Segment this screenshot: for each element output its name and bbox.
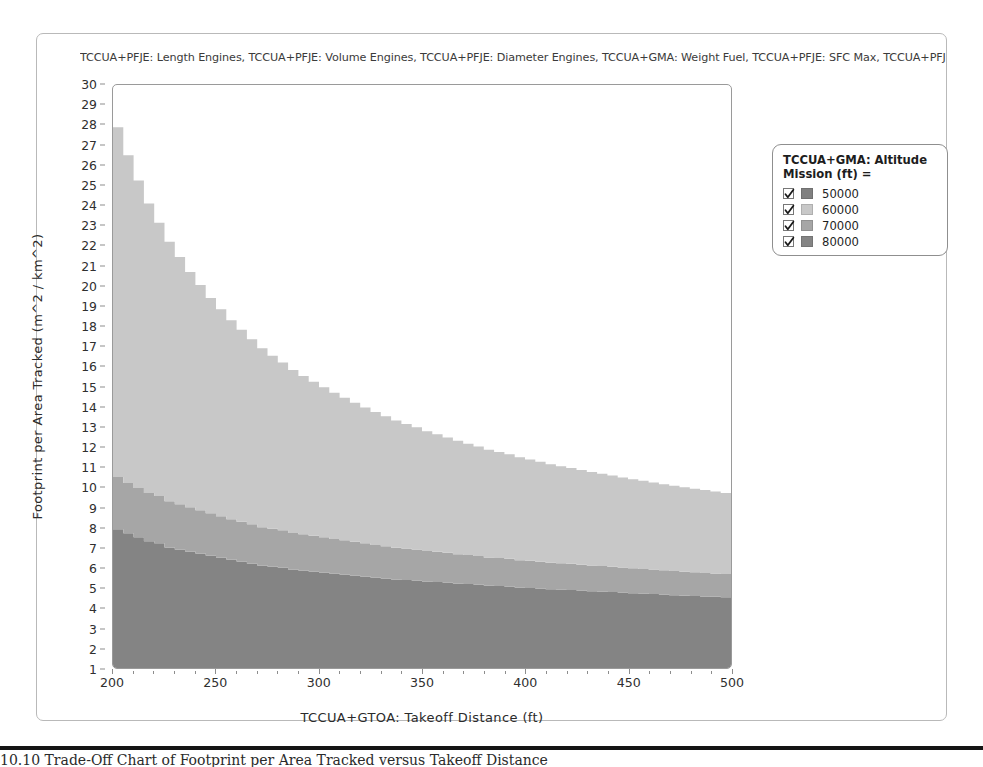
plot-area[interactable]: [113, 85, 731, 668]
y-tick-label: 25: [81, 177, 97, 192]
y-tick-mark: [100, 447, 105, 448]
y-tick-label: 23: [81, 218, 97, 233]
x-minor-tick-mark: [567, 671, 568, 674]
y-tick-mark: [100, 588, 105, 589]
y-tick-mark: [100, 426, 105, 427]
y-tick-label: 19: [81, 298, 97, 313]
y-tick-mark: [100, 507, 105, 508]
x-minor-tick-mark: [670, 671, 671, 674]
y-tick-mark: [100, 265, 105, 266]
y-tick-label: 12: [81, 440, 97, 455]
y-tick-mark: [100, 205, 105, 206]
legend-color-swatch: [801, 188, 813, 199]
x-minor-tick-mark: [236, 671, 237, 674]
y-tick-label: 21: [81, 258, 97, 273]
y-tick-label: 1: [89, 662, 97, 677]
y-tick-label: 27: [81, 137, 97, 152]
y-tick-label: 3: [89, 621, 97, 636]
y-tick-label: 11: [81, 460, 97, 475]
legend-item[interactable]: 60000: [783, 202, 937, 217]
x-tick-mark: [629, 669, 630, 674]
y-tick-label: 30: [81, 77, 97, 92]
legend-item[interactable]: 70000: [783, 218, 937, 233]
y-tick-label: 28: [81, 117, 97, 132]
y-tick-label: 5: [89, 581, 97, 596]
legend-label: 80000: [822, 235, 859, 249]
y-tick-mark: [100, 487, 105, 488]
y-tick-label: 9: [89, 500, 97, 515]
x-minor-tick-mark: [505, 671, 506, 674]
y-tick-mark: [100, 104, 105, 105]
y-tick-mark: [100, 568, 105, 569]
y-tick-mark: [100, 366, 105, 367]
y-tick-mark: [100, 164, 105, 165]
x-tick-label: 450: [617, 675, 641, 690]
stacked-area-svg: [113, 85, 731, 668]
y-tick-mark: [100, 305, 105, 306]
y-tick-mark: [100, 386, 105, 387]
legend-color-swatch: [801, 220, 813, 231]
legend-title: TCCUA+GMA: Altitude Mission (ft) =: [783, 153, 937, 181]
x-minor-tick-mark: [298, 671, 299, 674]
x-minor-tick-mark: [174, 671, 175, 674]
y-tick-label: 15: [81, 379, 97, 394]
x-tick-label: 400: [513, 675, 537, 690]
x-minor-tick-mark: [381, 671, 382, 674]
x-axis-title: TCCUA+GTOA: Takeoff Distance (ft): [112, 710, 732, 725]
legend-box[interactable]: TCCUA+GMA: Altitude Mission (ft) = 50000…: [772, 144, 948, 256]
plot-frame: [112, 84, 732, 669]
y-tick-mark: [100, 346, 105, 347]
y-tick-mark: [100, 84, 105, 85]
y-tick-mark: [100, 245, 105, 246]
y-tick-mark: [100, 326, 105, 327]
x-minor-tick-mark: [277, 671, 278, 674]
x-minor-tick-mark: [711, 671, 712, 674]
legend-item[interactable]: 50000: [783, 186, 937, 201]
x-minor-tick-mark: [339, 671, 340, 674]
y-tick-label: 7: [89, 540, 97, 555]
x-tick-label: 200: [100, 675, 124, 690]
legend-color-swatch: [801, 204, 813, 215]
y-tick-mark: [100, 184, 105, 185]
y-tick-label: 26: [81, 157, 97, 172]
legend-checkbox[interactable]: [783, 188, 794, 199]
legend-color-swatch: [801, 236, 813, 247]
x-minor-tick-mark: [587, 671, 588, 674]
y-tick-label: 4: [89, 601, 97, 616]
legend-label: 70000: [822, 219, 859, 233]
x-minor-tick-mark: [691, 671, 692, 674]
x-minor-tick-mark: [546, 671, 547, 674]
x-minor-tick-mark: [484, 671, 485, 674]
y-tick-label: 18: [81, 319, 97, 334]
x-axis-ticks: 200250300350400450500: [112, 675, 732, 695]
figure-caption: 10.10 Trade-Off Chart of Footprint per A…: [0, 752, 983, 767]
y-tick-mark: [100, 285, 105, 286]
y-tick-label: 20: [81, 278, 97, 293]
y-tick-mark: [100, 527, 105, 528]
x-tick-label: 250: [203, 675, 227, 690]
y-tick-mark: [100, 669, 105, 670]
y-tick-label: 6: [89, 561, 97, 576]
y-tick-mark: [100, 124, 105, 125]
x-tick-mark: [215, 669, 216, 674]
x-minor-tick-mark: [257, 671, 258, 674]
y-tick-label: 17: [81, 339, 97, 354]
x-minor-tick-mark: [195, 671, 196, 674]
x-minor-tick-mark: [360, 671, 361, 674]
legend-checkbox[interactable]: [783, 204, 794, 215]
x-tick-mark: [422, 669, 423, 674]
y-tick-mark: [100, 628, 105, 629]
x-minor-tick-mark: [463, 671, 464, 674]
y-tick-mark: [100, 608, 105, 609]
legend-label: 60000: [822, 203, 859, 217]
y-tick-mark: [100, 547, 105, 548]
legend-item[interactable]: 80000: [783, 234, 937, 249]
x-tick-label: 500: [720, 675, 744, 690]
y-tick-mark: [100, 406, 105, 407]
y-tick-label: 29: [81, 97, 97, 112]
y-tick-label: 10: [81, 480, 97, 495]
legend-checkbox[interactable]: [783, 236, 794, 247]
y-tick-label: 24: [81, 198, 97, 213]
legend-checkbox[interactable]: [783, 220, 794, 231]
x-minor-tick-mark: [133, 671, 134, 674]
